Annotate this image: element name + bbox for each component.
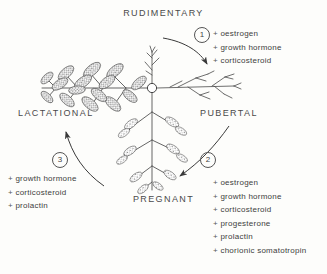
nipple-hub — [147, 83, 156, 92]
hormone-item: growth hormone — [213, 190, 306, 204]
hormone-item: growth hormone — [8, 172, 77, 186]
gland-rudimentary — [145, 46, 159, 83]
hormone-item: growth hormone — [213, 41, 282, 55]
stage-label-rudimentary: RUDIMENTARY — [0, 8, 327, 18]
hormone-item: corticosteroid — [213, 54, 282, 68]
step-marker-1: 1 — [194, 27, 210, 43]
hormone-item: oestrogen — [213, 27, 282, 41]
hormone-list-pubertal-to-pregnant: oestrogengrowth hormonecorticosteroidpro… — [213, 176, 306, 258]
arrow-pubertal-to-pregnant — [180, 126, 229, 176]
step-marker-3: 3 — [52, 152, 68, 168]
gland-pregnant — [115, 93, 189, 195]
mammary-gland-development-diagram: RUDIMENTARY LACTATIONAL PUBERTAL PREGNAN… — [0, 0, 327, 274]
stage-label-lactational: LACTATIONAL — [18, 108, 94, 118]
hormone-item: prolactin — [213, 230, 306, 244]
gland-lactational — [39, 59, 149, 113]
hormone-item: prolactin — [8, 199, 77, 213]
hormone-item: chorionic somatotropin — [213, 244, 306, 258]
step-marker-2: 2 — [200, 152, 216, 168]
hormone-item: corticosteroid — [213, 203, 306, 217]
gland-pubertal — [157, 71, 241, 99]
hormone-item: progesterone — [213, 217, 306, 231]
hormone-list-pregnant-to-lactational: growth hormonecorticosteroidprolactin — [8, 172, 77, 213]
stage-label-pubertal: PUBERTAL — [200, 108, 258, 118]
hormone-item: corticosteroid — [8, 186, 77, 200]
hormone-list-rudimentary-to-pubertal: oestrogengrowth hormonecorticosteroid — [213, 27, 282, 68]
hormone-item: oestrogen — [213, 176, 306, 190]
